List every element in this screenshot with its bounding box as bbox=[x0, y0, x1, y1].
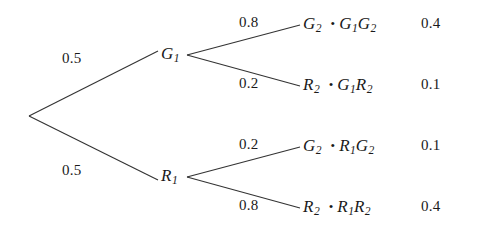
event-second-symbol: G bbox=[358, 15, 370, 32]
event-first-subscript: 1 bbox=[350, 84, 356, 96]
leaf-symbol: R bbox=[303, 198, 313, 215]
joint-probability: 0.4 bbox=[421, 199, 440, 214]
event-first-subscript: 1 bbox=[352, 23, 358, 35]
event-second-symbol: G bbox=[356, 137, 368, 154]
event-second-subscript: 2 bbox=[365, 206, 371, 218]
bullet-icon: • bbox=[331, 139, 336, 152]
leaf-subscript: 2 bbox=[316, 145, 322, 157]
leaf-symbol: G bbox=[303, 15, 315, 32]
node-r1-subscript: 1 bbox=[172, 174, 178, 187]
outcome-row: R2 • G1R2 bbox=[303, 76, 372, 93]
bullet-icon: • bbox=[329, 78, 334, 91]
edge-root-to-r1 bbox=[29, 116, 158, 180]
edge-probability-r1-r2: 0.8 bbox=[239, 198, 258, 213]
event-second-subscript: 2 bbox=[369, 145, 375, 157]
bullet-icon: • bbox=[331, 17, 336, 30]
edge-probability-r1-g2: 0.2 bbox=[239, 137, 258, 152]
joint-probability: 0.1 bbox=[421, 138, 440, 153]
leaf-symbol: G bbox=[303, 137, 315, 154]
leaf-subscript: 2 bbox=[314, 84, 320, 96]
node-r1-symbol: R bbox=[161, 166, 171, 185]
event-second-subscript: 2 bbox=[370, 23, 376, 35]
node-g1-subscript: 1 bbox=[174, 52, 180, 65]
edge-root-to-g1 bbox=[29, 51, 158, 116]
probability-tree-diagram: 0.5 0.5 G1 R1 0.8 0.2 0.2 0.8 G2 • G1G2 … bbox=[0, 0, 479, 232]
edge-probability-g1-g2: 0.8 bbox=[239, 15, 258, 30]
edge-probability-g1: 0.5 bbox=[62, 51, 81, 66]
joint-probability: 0.4 bbox=[421, 16, 440, 31]
event-second-subscript: 2 bbox=[367, 84, 373, 96]
event-second-symbol: R bbox=[356, 76, 366, 93]
outcome-row: G2 • G1G2 bbox=[303, 15, 376, 32]
edge-probability-r1: 0.5 bbox=[62, 163, 81, 178]
event-first-symbol: G bbox=[339, 15, 351, 32]
node-label-g1: G1 bbox=[161, 45, 180, 62]
outcome-row: R2 • R1R2 bbox=[303, 198, 371, 215]
joint-probability: 0.1 bbox=[421, 77, 440, 92]
leaf-subscript: 2 bbox=[314, 206, 320, 218]
node-label-r1: R1 bbox=[161, 167, 178, 184]
event-second-symbol: R bbox=[354, 198, 364, 215]
bullet-icon: • bbox=[329, 200, 334, 213]
event-first-symbol: R bbox=[339, 137, 349, 154]
node-g1-symbol: G bbox=[161, 44, 173, 63]
event-first-subscript: 1 bbox=[350, 145, 356, 157]
edge-probability-g1-r2: 0.2 bbox=[239, 76, 258, 91]
event-first-symbol: R bbox=[337, 198, 347, 215]
event-first-subscript: 1 bbox=[348, 206, 354, 218]
outcome-row: G2 • R1G2 bbox=[303, 137, 374, 154]
leaf-subscript: 2 bbox=[316, 23, 322, 35]
leaf-symbol: R bbox=[303, 76, 313, 93]
event-first-symbol: G bbox=[337, 76, 349, 93]
